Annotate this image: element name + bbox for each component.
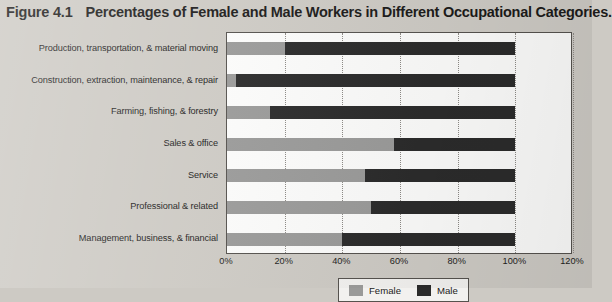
- x-tick-label: 100%: [503, 256, 527, 266]
- bar-segment-female: [227, 42, 285, 55]
- figure-title: Figure 4.1 Percentages of Female and Mal…: [6, 1, 590, 23]
- legend-item-male: Male: [417, 285, 458, 296]
- x-tick-label: 60%: [390, 256, 408, 266]
- category-label: Professional & related: [130, 199, 218, 213]
- legend-swatch-male: [417, 285, 431, 296]
- bar-segment-female: [227, 169, 365, 182]
- plot-area: [226, 32, 572, 254]
- bar-segment-male: [236, 74, 516, 87]
- bar-segment-female: [227, 138, 394, 151]
- legend-label-male: Male: [437, 285, 458, 296]
- bar-row: [227, 201, 573, 214]
- bar-segment-female: [227, 233, 342, 246]
- bars-layer: [227, 33, 571, 253]
- bar-segment-male: [342, 233, 515, 246]
- chart-container: Production, transportation, & material m…: [0, 24, 592, 288]
- figure-caption: Percentages of Female and Male Workers i…: [86, 4, 612, 20]
- legend-swatch-female: [349, 285, 363, 296]
- bar-row: [227, 74, 573, 87]
- category-axis-labels: Production, transportation, & material m…: [0, 24, 222, 234]
- bar-segment-male: [270, 106, 515, 119]
- bar-segment-male: [285, 42, 516, 55]
- x-tick-label: 80%: [447, 256, 465, 266]
- gridline-120: [573, 33, 574, 253]
- bar-row: [227, 138, 573, 151]
- category-label: Farming, fishing, & forestry: [111, 104, 218, 118]
- bar-segment-female: [227, 74, 236, 87]
- category-label: Service: [188, 168, 218, 182]
- legend-item-female: Female: [349, 285, 401, 296]
- x-axis-tick-labels: 0%20%40%60%80%100%120%: [226, 256, 572, 270]
- bar-segment-male: [365, 169, 515, 182]
- bar-row: [227, 233, 573, 246]
- x-tick-label: 0%: [219, 256, 232, 266]
- x-tick-label: 40%: [332, 256, 350, 266]
- bar-row: [227, 106, 573, 119]
- bar-row: [227, 169, 573, 182]
- x-tick-label: 20%: [274, 256, 292, 266]
- chart-legend: Female Male: [338, 278, 469, 302]
- category-label: Production, transportation, & material m…: [39, 41, 218, 55]
- bar-segment-male: [394, 138, 515, 151]
- legend-label-female: Female: [369, 285, 401, 296]
- figure-number: Figure 4.1: [6, 4, 73, 20]
- bar-segment-female: [227, 106, 270, 119]
- bar-segment-female: [227, 201, 371, 214]
- category-label: Management, business, & financial: [79, 231, 218, 245]
- x-tick-label: 120%: [560, 256, 584, 266]
- category-label: Sales & office: [163, 136, 218, 150]
- category-label: Construction, extraction, maintenance, &…: [31, 73, 218, 87]
- bar-segment-male: [371, 201, 515, 214]
- bar-row: [227, 42, 573, 55]
